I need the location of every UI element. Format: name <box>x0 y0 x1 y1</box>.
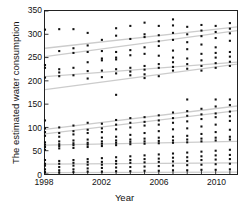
data-point <box>58 75 60 77</box>
data-point <box>72 28 74 30</box>
data-point <box>44 168 46 170</box>
data-point <box>58 166 60 168</box>
data-point <box>44 64 46 66</box>
data-point <box>186 57 188 59</box>
data-point <box>200 169 202 171</box>
data-point <box>158 137 160 139</box>
data-point <box>200 70 202 72</box>
data-point <box>158 40 160 42</box>
data-point <box>215 163 217 165</box>
data-point <box>87 142 89 144</box>
data-point <box>158 67 160 69</box>
data-point <box>186 127 188 129</box>
data-point <box>58 163 60 165</box>
data-point <box>129 25 131 27</box>
data-point <box>44 159 46 161</box>
data-point <box>186 98 188 100</box>
plot-svg-layer <box>45 11 237 174</box>
data-point <box>72 125 74 127</box>
data-point <box>186 68 188 70</box>
data-point <box>144 161 146 163</box>
data-point <box>115 68 117 70</box>
data-point <box>144 53 146 55</box>
data-point <box>115 144 117 146</box>
data-point <box>172 165 174 167</box>
data-point <box>87 146 89 148</box>
data-point <box>129 155 131 157</box>
data-point <box>229 120 231 122</box>
data-point <box>186 169 188 171</box>
data-point <box>144 138 146 140</box>
data-point <box>144 125 146 127</box>
data-point <box>200 65 202 67</box>
data-point <box>101 70 103 72</box>
x-tick-label: 2010 <box>196 178 236 187</box>
data-point <box>172 24 174 26</box>
data-point <box>44 29 46 31</box>
data-point <box>229 98 231 100</box>
data-point <box>101 76 103 78</box>
plot-area <box>44 10 238 175</box>
data-point <box>144 69 146 71</box>
data-point <box>172 122 174 124</box>
data-point <box>158 140 160 142</box>
data-point <box>129 71 131 73</box>
data-point <box>186 152 188 154</box>
data-point <box>158 45 160 47</box>
data-point <box>87 171 89 173</box>
data-point <box>200 108 202 110</box>
data-point <box>72 67 74 69</box>
data-point <box>144 36 146 38</box>
data-point <box>172 50 174 52</box>
data-point <box>229 138 231 140</box>
data-point <box>115 142 117 144</box>
data-point <box>87 144 89 146</box>
data-point <box>115 170 117 172</box>
data-point <box>144 158 146 160</box>
data-point <box>129 141 131 143</box>
data-point <box>44 171 46 173</box>
data-point <box>115 57 117 59</box>
data-point <box>115 160 117 162</box>
data-point <box>115 156 117 158</box>
data-point <box>158 158 160 160</box>
data-point <box>44 119 46 121</box>
data-point <box>200 59 202 61</box>
data-point <box>229 56 231 58</box>
data-point <box>58 136 60 138</box>
data-point <box>215 154 217 156</box>
data-point <box>129 162 131 164</box>
data-point <box>87 32 89 34</box>
data-point <box>44 131 46 133</box>
data-point <box>215 46 217 48</box>
data-point <box>115 139 117 141</box>
data-point <box>229 28 231 30</box>
data-point <box>115 27 117 29</box>
data-point <box>186 33 188 35</box>
data-point <box>172 57 174 59</box>
data-point <box>229 51 231 53</box>
data-point <box>101 39 103 41</box>
data-point <box>72 162 74 164</box>
data-point <box>158 130 160 132</box>
data-point <box>229 65 231 67</box>
data-point <box>144 33 146 35</box>
data-point <box>186 141 188 143</box>
data-point <box>101 164 103 166</box>
data-point <box>158 153 160 155</box>
data-point <box>215 159 217 161</box>
data-point <box>101 127 103 129</box>
data-point <box>72 47 74 49</box>
data-point <box>158 142 160 144</box>
data-point <box>58 132 60 134</box>
data-point <box>72 159 74 161</box>
data-point <box>87 167 89 169</box>
data-point <box>172 142 174 144</box>
data-point <box>215 112 217 114</box>
data-point <box>186 160 188 162</box>
data-point <box>101 145 103 147</box>
data-point <box>144 73 146 75</box>
data-point <box>144 65 146 67</box>
data-point <box>72 168 74 170</box>
data-point <box>87 138 89 140</box>
